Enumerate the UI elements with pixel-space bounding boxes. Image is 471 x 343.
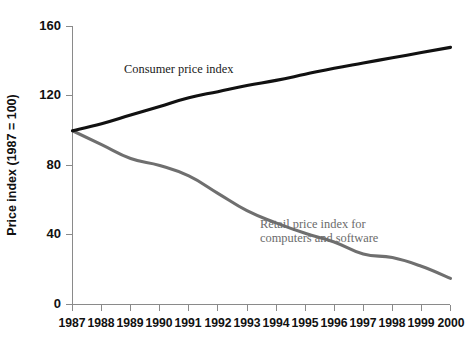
y-tick-label-120: 120	[39, 87, 61, 102]
annotation-consumer-price-index: Consumer price index	[124, 62, 234, 76]
y-axis-title: Price index (1987 = 100)	[5, 94, 19, 235]
x-tick-label-1999: 1999	[407, 316, 434, 330]
x-tick-label-2000: 2000	[437, 316, 464, 330]
x-tick-label-1992: 1992	[204, 316, 231, 330]
series-line-retail-price-index	[73, 131, 451, 279]
x-tick-label-1997: 1997	[349, 316, 376, 330]
x-tick-label-1995: 1995	[291, 316, 318, 330]
y-tick-label-160: 160	[39, 18, 61, 33]
annotation-retail-price-index-line2: computers and software	[260, 231, 379, 245]
x-tick-label-1988: 1988	[87, 316, 114, 330]
x-tick-label-1991: 1991	[174, 316, 201, 330]
x-tick-label-1987: 1987	[58, 316, 85, 330]
price-index-chart: 160 120 80 40 0 Price index (1987 = 100)…	[0, 0, 471, 343]
x-tick-label-1993: 1993	[233, 316, 260, 330]
x-tick-label-1989: 1989	[116, 316, 143, 330]
series-line-consumer-price-index	[73, 47, 451, 130]
y-tick-label-0: 0	[54, 296, 61, 311]
y-tick-label-40: 40	[47, 226, 61, 241]
chart-canvas: 160 120 80 40 0 Price index (1987 = 100)…	[0, 0, 471, 343]
x-tick-label-1998: 1998	[378, 316, 405, 330]
x-tick-label-1990: 1990	[145, 316, 172, 330]
x-axis-ticks	[73, 305, 451, 312]
y-axis-ticks	[66, 27, 73, 305]
x-tick-label-1996: 1996	[320, 316, 347, 330]
x-tick-label-1994: 1994	[262, 316, 289, 330]
y-tick-label-80: 80	[47, 157, 61, 172]
annotation-retail-price-index-line1: Retail price index for	[260, 217, 366, 231]
